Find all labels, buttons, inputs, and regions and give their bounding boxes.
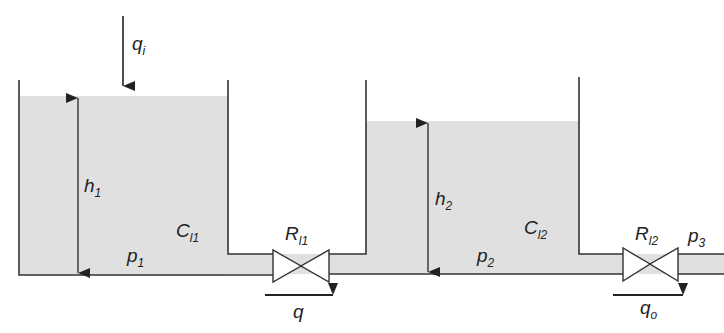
label-rl2: Rl2 <box>635 223 658 248</box>
valve2-icon <box>623 248 678 281</box>
tank2-liquid <box>366 121 579 274</box>
two-tank-diagram: qi h1 Cl1 p1 Rl1 q h2 Cl2 p2 Rl2 p3 qo <box>0 0 724 333</box>
label-qo: qo <box>640 297 658 322</box>
liquid-fill <box>20 96 724 275</box>
tank1-liquid <box>20 96 228 275</box>
label-p3: p3 <box>687 225 706 250</box>
label-q: q <box>293 301 304 322</box>
label-qi: qi <box>132 33 146 58</box>
label-rl1: Rl1 <box>285 223 308 248</box>
